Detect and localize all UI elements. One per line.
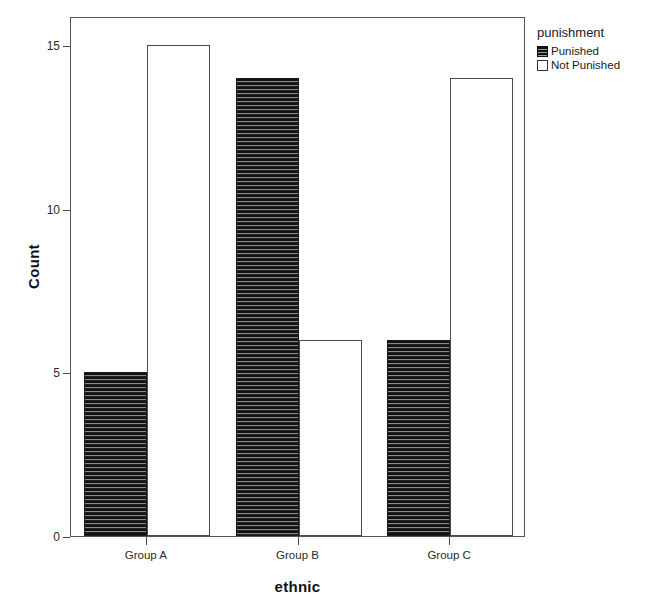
plot-area [70,17,525,537]
y-tick-mark [63,537,70,538]
x-tick-label: Group C [389,550,509,562]
y-tick-label: 0 [26,531,60,543]
y-axis-title: Count [25,212,42,322]
x-tick-label: Group A [86,550,206,562]
y-tick-mark [63,373,70,374]
bar-group-b-not-punished [299,340,362,536]
bar-group-a-not-punished [147,45,210,536]
bar-chart: Count 051015 Group AGroup BGroup C ethni… [0,0,670,606]
legend-label-punished: Punished [551,45,599,58]
y-tick-label: 5 [26,367,60,379]
bar-group-c-punished [387,340,450,536]
bar-group-c-not-punished [450,78,513,536]
y-tick-label: 15 [26,40,60,52]
x-tick-mark [449,537,450,545]
bar-group-b-punished [236,78,299,536]
bar-group-a-punished [84,372,147,536]
legend-title: punishment [537,26,667,40]
bars-layer [71,18,524,536]
legend-swatch-punished-icon [537,46,548,57]
x-tick-mark [298,537,299,545]
legend: punishment Punished Not Punished [537,26,667,73]
y-tick-mark [63,210,70,211]
x-tick-mark [146,537,147,545]
legend-label-not-punished: Not Punished [551,59,620,72]
y-tick-mark [63,46,70,47]
legend-item-punished[interactable]: Punished [537,45,667,58]
legend-swatch-not-punished-icon [537,60,548,71]
x-tick-label: Group B [238,550,358,562]
legend-item-not-punished[interactable]: Not Punished [537,59,667,72]
y-tick-label: 10 [26,204,60,216]
x-axis-title: ethnic [70,578,525,595]
